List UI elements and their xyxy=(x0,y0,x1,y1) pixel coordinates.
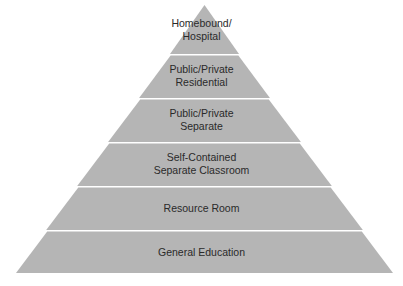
label-public-private-residential: Public/Private Residential xyxy=(0,63,403,89)
label-homebound-hospital: Homebound/ Hospital xyxy=(0,17,403,43)
label-general-education: General Education xyxy=(0,246,403,259)
label-self-contained-classroom: Self-Contained Separate Classroom xyxy=(0,151,403,177)
label-public-private-separate: Public/Private Separate xyxy=(0,107,403,133)
label-resource-room: Resource Room xyxy=(0,202,403,215)
